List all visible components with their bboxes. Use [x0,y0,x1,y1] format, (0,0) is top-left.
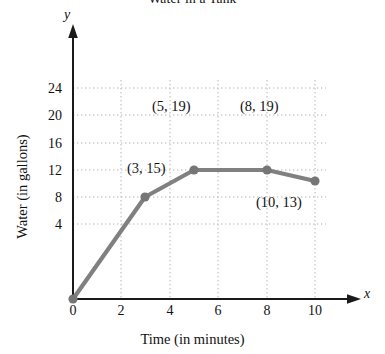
horizontal-gridlines [73,88,326,224]
data-point-10-13[interactable] [310,176,319,185]
data-point-5-19[interactable] [189,165,198,174]
data-line-series [73,170,315,299]
plot-canvas [0,0,385,354]
data-point-8-19[interactable] [262,165,271,174]
data-point-0-0[interactable] [68,294,77,303]
data-point-3-15[interactable] [140,192,149,201]
y-axis-arrowhead [68,24,78,38]
y-axis [68,24,78,299]
chart-figure: Water in a Tank Water (in gallons) Time … [0,0,385,354]
x-axis [73,294,361,304]
vertical-gridlines [121,80,315,299]
x-axis-arrowhead [347,294,361,304]
data-point-markers [68,165,319,303]
